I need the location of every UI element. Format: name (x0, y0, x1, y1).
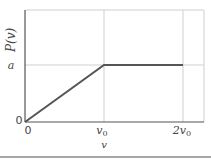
x-tick-zero: 0 (25, 124, 32, 137)
x-tick-v0: v0 (96, 124, 107, 138)
x-tick-2v0: 2v0 (172, 124, 191, 138)
y-tick-a: a (8, 59, 15, 72)
y-axis-label: P(v) (4, 28, 18, 54)
chart: P(v) a 0 0 v0 2v0 v (0, 0, 211, 161)
y-tick-zero: 0 (16, 114, 23, 127)
x-axis-label: v (101, 139, 107, 150)
